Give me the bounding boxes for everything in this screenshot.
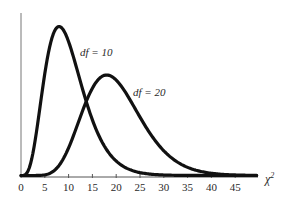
series-df10-curve (21, 27, 257, 176)
x-tick-label: 35 (182, 181, 194, 193)
x-tick-label: 10 (63, 181, 75, 193)
x-axis-title: χ2 (264, 171, 274, 186)
x-tick-label: 20 (111, 181, 123, 193)
chi-square-chart: 051015202530354045 df = 10 df = 20 χ2 (0, 0, 293, 205)
x-tick-label: 25 (135, 181, 147, 193)
x-tick-label: 5 (42, 181, 48, 193)
series-label-df10: df = 10 (80, 46, 113, 58)
x-tick-label: 40 (206, 181, 218, 193)
x-tick-label: 45 (230, 181, 242, 193)
x-axis-tick-labels: 051015202530354045 (18, 181, 241, 193)
x-tick-label: 0 (18, 181, 24, 193)
series-label-df20: df = 20 (133, 86, 166, 98)
x-tick-label: 30 (158, 181, 170, 193)
x-tick-label: 15 (87, 181, 99, 193)
